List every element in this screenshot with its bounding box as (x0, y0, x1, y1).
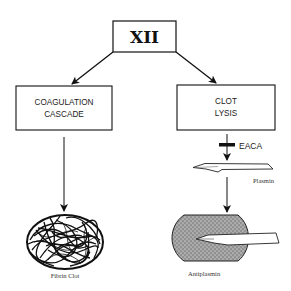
coagulation-line1: COAGULATION (35, 98, 94, 107)
antiplasmin-icon (172, 215, 279, 261)
antiplasmin-label: Antiplasmin (188, 270, 221, 277)
plasmin-knife-icon (193, 164, 273, 173)
clot-lysis-node: CLOT LYSIS (177, 85, 275, 130)
factor-xii-label: XII (130, 27, 159, 47)
fibrin-clot-label: Fibrin Clot (51, 272, 80, 279)
coagulation-diagram: XII COAGULATION CASCADE CLOT LYSIS (0, 0, 291, 291)
arrow-to-clot-lysis (176, 52, 216, 83)
arrow-to-coagulation (72, 52, 113, 84)
inhibition-bar-icon (219, 143, 235, 147)
coagulation-cascade-node: COAGULATION CASCADE (16, 86, 112, 130)
fibrin-clot-icon (27, 215, 103, 269)
eaca-label: EACA (239, 141, 262, 151)
coagulation-line2: CASCADE (44, 110, 84, 119)
clot-lysis-line1: CLOT (215, 97, 237, 106)
clot-lysis-line2: LYSIS (215, 109, 238, 118)
plasmin-label: Plasmin (253, 177, 275, 184)
factor-xii-node: XII (113, 21, 176, 52)
